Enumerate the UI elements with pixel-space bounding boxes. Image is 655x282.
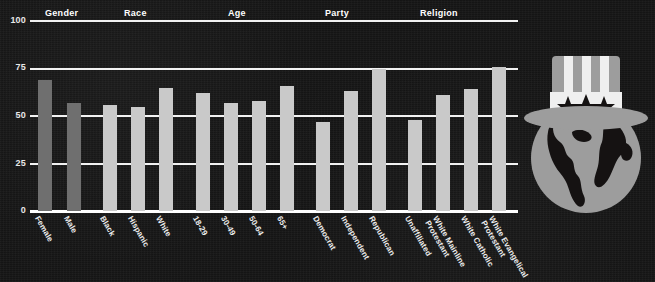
- bar-white-mainline-protestant[interactable]: [436, 95, 450, 211]
- bar-hispanic[interactable]: [131, 107, 145, 212]
- x-label-50-64: 50-64: [247, 215, 265, 237]
- bar-republican[interactable]: [372, 69, 386, 212]
- bar-male[interactable]: [67, 103, 81, 211]
- globe-with-uncle-sam-hat-logo: [520, 46, 652, 218]
- bar-18-29[interactable]: [196, 93, 210, 211]
- group-header-party: Party: [325, 8, 349, 18]
- x-label-30-49: 30-49: [219, 215, 237, 237]
- bar-independent[interactable]: [344, 91, 358, 211]
- group-header-age: Age: [228, 8, 246, 18]
- y-axis-tick-50: 50: [0, 111, 26, 120]
- x-label-black: Black: [98, 215, 116, 238]
- x-label-female: Female: [33, 215, 55, 244]
- x-label-white: White: [154, 215, 173, 239]
- x-label-18-29: 18-29: [191, 215, 209, 237]
- x-label-democrat: Democrat: [311, 215, 337, 252]
- gridline-100: [30, 20, 518, 22]
- bar-unaffiliated[interactable]: [408, 120, 422, 211]
- bar-white-catholic[interactable]: [464, 89, 478, 211]
- y-axis-tick-75: 75: [0, 63, 26, 72]
- group-header-race: Race: [124, 8, 147, 18]
- bar-female[interactable]: [38, 80, 52, 211]
- x-label-republican: Republican: [367, 215, 397, 258]
- bar-democrat[interactable]: [316, 122, 330, 211]
- y-axis-tick-100: 100: [0, 16, 26, 25]
- bar-white-evangelical-protestant[interactable]: [492, 67, 506, 211]
- x-label-hispanic: Hispanic: [126, 215, 151, 249]
- bar-chart: 100 75 50 25 0 Gender Race Age Party Rel…: [0, 0, 655, 282]
- bar-30-49[interactable]: [224, 103, 238, 211]
- group-header-gender: Gender: [45, 8, 78, 18]
- bar-50-64[interactable]: [252, 101, 266, 211]
- y-axis-tick-25: 25: [0, 159, 26, 168]
- gridline-75: [30, 68, 518, 70]
- bar-black[interactable]: [103, 105, 117, 211]
- bar-65-plus[interactable]: [280, 86, 294, 211]
- bar-white[interactable]: [159, 88, 173, 212]
- x-label-male: Male: [62, 215, 79, 235]
- x-label-independent: Independent: [339, 215, 371, 261]
- group-header-religion: Religion: [420, 8, 458, 18]
- x-label-65-plus: 65+: [275, 215, 289, 231]
- y-axis-tick-0: 0: [0, 206, 26, 215]
